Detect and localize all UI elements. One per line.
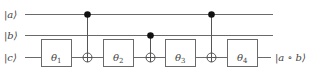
rotation-gate-theta3: θ3	[166, 40, 196, 67]
rotation-gate-theta1: θ1	[42, 40, 72, 67]
qubit-label-c: |c⟩	[4, 52, 17, 64]
target-oplus-icon	[207, 53, 216, 62]
control-dot	[84, 11, 91, 18]
cnot-gate-1	[83, 11, 92, 62]
target-oplus-icon	[83, 53, 92, 62]
qubit-label-a: |a⟩	[4, 9, 17, 21]
quantum-circuit: |a⟩ |b⟩ |c⟩ θ1	[0, 0, 315, 78]
rotation-gate-theta4: θ4	[228, 40, 258, 67]
rotation-gate-theta2: θ2	[104, 40, 134, 67]
cnot-gate-2	[146, 32, 155, 62]
control-dot	[208, 11, 215, 18]
qubit-label-b: |b⟩	[4, 30, 18, 42]
target-oplus-icon	[146, 53, 155, 62]
output-label: |a ∘ b⟩	[275, 52, 306, 64]
control-dot	[147, 32, 154, 39]
cnot-gate-3	[207, 11, 216, 62]
